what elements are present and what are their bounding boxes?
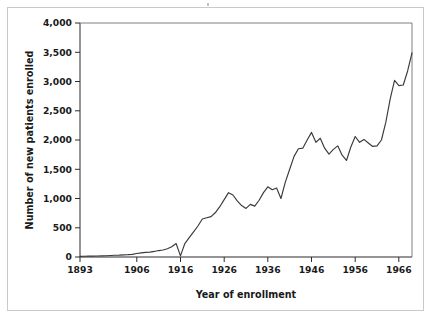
line-chart: 0 500 1,000 1,500 2,000 2,500 3,000 3,50… [0,0,433,323]
y-tick-label: 2,000 [43,134,72,145]
x-tick-label: 1946 [299,264,325,275]
x-tick-marks [80,257,399,262]
x-axis-title: Year of enrollment [195,289,297,300]
y-tick-label: 3,000 [43,76,72,87]
y-tick-labels: 0 500 1,000 1,500 2,000 2,500 3,000 3,50… [43,17,72,262]
x-tick-label: 1916 [168,264,194,275]
y-tick-label: 4,000 [43,17,72,28]
figure-canvas: 0 500 1,000 1,500 2,000 2,500 3,000 3,50… [0,0,433,323]
x-tick-label: 1966 [386,264,412,275]
y-tick-label: 1,000 [43,193,72,204]
y-tick-label: 3,500 [43,47,72,58]
x-tick-label: 1936 [255,264,281,275]
x-tick-label: 1926 [211,264,237,275]
x-tick-label: 1956 [342,264,368,275]
x-tick-label: 1893 [67,264,93,275]
y-tick-marks [75,23,80,257]
y-tick-label: 2,500 [43,105,72,116]
data-series-line [80,53,412,257]
y-tick-label: 500 [53,222,72,233]
x-tick-label: 1906 [124,264,150,275]
y-axis-title: Number of new patients enrolled [24,50,35,229]
x-tick-labels: 1893 1906 1916 1926 1936 1946 1956 1966 [67,264,411,275]
y-tick-label: 1,500 [43,164,72,175]
y-tick-label: 0 [66,251,72,262]
